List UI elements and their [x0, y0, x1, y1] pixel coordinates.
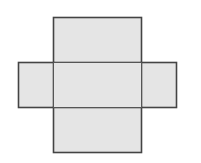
- top-face: [54, 18, 142, 63]
- prism-net-diagram: [0, 0, 201, 163]
- center-face: [54, 63, 142, 108]
- right-face: [142, 63, 177, 108]
- left-face: [19, 63, 54, 108]
- bottom-face: [54, 108, 142, 153]
